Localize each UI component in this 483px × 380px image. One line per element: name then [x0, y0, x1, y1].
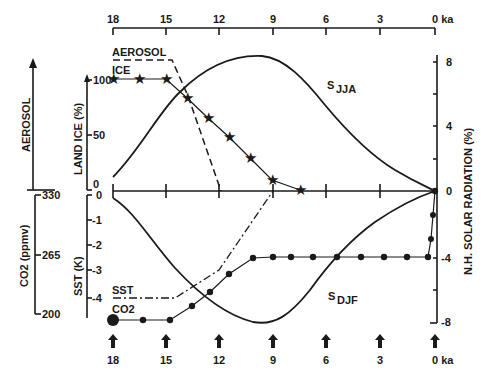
svg-text:S: S [327, 79, 334, 91]
svg-text:12: 12 [213, 13, 225, 25]
bottom-tick-labels: 18 15 12 9 6 3 0 ka [107, 354, 454, 366]
sst-axis-label: SST (K) [72, 256, 84, 296]
svg-text:265: 265 [42, 249, 60, 261]
top-tick-labels: 18 15 12 9 6 3 0 ka [107, 13, 454, 25]
aerosol-arrow-icon [29, 58, 37, 68]
svg-text:-3: -3 [92, 264, 102, 276]
svg-text:15: 15 [160, 354, 172, 366]
svg-text:★: ★ [266, 171, 279, 188]
land-ice-tick-labels: 100 50 0 [93, 74, 111, 190]
land-ice-axis-label: LAND ICE (%) [72, 103, 84, 175]
svg-text:200: 200 [42, 308, 60, 320]
svg-text:18: 18 [107, 354, 119, 366]
svg-text:JJA: JJA [336, 83, 356, 95]
svg-text:0 ka: 0 ka [432, 354, 454, 366]
svg-text:9: 9 [270, 354, 276, 366]
svg-text:3: 3 [377, 13, 383, 25]
svg-text:12: 12 [213, 354, 225, 366]
svg-text:15: 15 [160, 13, 172, 25]
svg-text:★: ★ [181, 89, 194, 106]
svg-text:3: 3 [377, 354, 383, 366]
svg-text:6: 6 [323, 13, 329, 25]
svg-text:-2: -2 [92, 239, 102, 251]
co2-tick-labels: 330 265 200 [42, 189, 60, 320]
svg-text:★: ★ [202, 109, 215, 126]
time-arrow-icons [108, 334, 440, 348]
climate-forcing-chart: ★ ★ ★ ★ ★ ★ ★ ★ ★ 18 15 12 9 6 [0, 0, 483, 380]
co2-series-label: CO2 [112, 303, 135, 315]
svg-text:4: 4 [446, 120, 453, 132]
svg-text:★: ★ [294, 181, 307, 198]
svg-text:★: ★ [160, 70, 173, 87]
sst-series-label: SST [112, 284, 134, 296]
ice-series-label: ICE [112, 64, 130, 76]
svg-text:0 ka: 0 ka [432, 13, 454, 25]
ice-star-markers: ★ ★ ★ ★ ★ ★ ★ ★ ★ [107, 70, 307, 198]
svg-text:6: 6 [323, 354, 329, 366]
svg-text:DJF: DJF [337, 294, 358, 306]
svg-text:★: ★ [244, 149, 257, 166]
svg-text:9: 9 [270, 13, 276, 25]
svg-text:330: 330 [42, 189, 60, 201]
svg-text:0: 0 [96, 189, 102, 201]
svg-text:0: 0 [446, 185, 452, 197]
aerosol-series-label: AEROSOL [112, 46, 167, 58]
svg-text:100: 100 [93, 74, 111, 86]
sst-line [113, 191, 273, 298]
svg-text:S: S [328, 290, 335, 302]
co2-axis-label: CO2 (ppmv) [18, 224, 30, 287]
svg-text:18: 18 [107, 13, 119, 25]
solar-tick-labels: 8 4 0 -4 -8 [441, 56, 453, 328]
s-jja-label: S JJA [327, 79, 356, 95]
svg-text:-8: -8 [441, 316, 451, 328]
sst-tick-labels: 0 -1 -2 -3 -4 [92, 189, 103, 304]
svg-text:50: 50 [93, 129, 105, 141]
svg-text:-4: -4 [441, 252, 452, 264]
svg-text:-1: -1 [92, 214, 102, 226]
svg-text:★: ★ [133, 70, 146, 87]
svg-text:8: 8 [446, 56, 452, 68]
solar-axis-label: N.H. SOLAR RADIATION (%) [462, 128, 474, 275]
aerosol-axis-label: AEROSOL [20, 97, 32, 152]
svg-text:-4: -4 [92, 292, 103, 304]
svg-text:★: ★ [223, 128, 236, 145]
s-djf-label: S DJF [328, 290, 358, 306]
